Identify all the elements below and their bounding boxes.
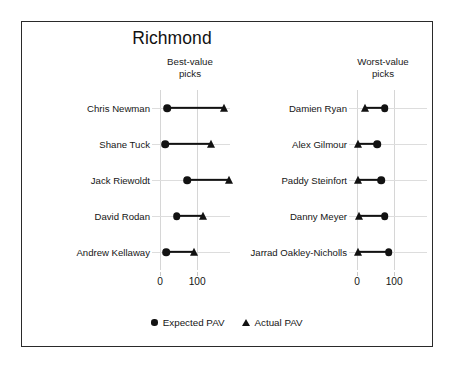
x-axis-worst-value: 0100 (227, 272, 427, 292)
data-point-expected-pav (381, 212, 389, 220)
plot-area-best-value: Chris NewmanShane TuckJack RiewoldtDavid… (30, 90, 230, 270)
plot-area-worst-value: Damien RyanAlex GilmourPaddy SteinfortDa… (227, 90, 427, 270)
axis-tick-label: 0 (354, 276, 360, 287)
triangle-marker-icon (242, 319, 250, 326)
chart-row: Chris Newman (30, 90, 230, 126)
data-point-expected-pav (161, 140, 169, 148)
panel-heading-line1: Worst-value (331, 56, 435, 68)
data-point-expected-pav (164, 104, 172, 112)
x-axis-best-value: 0100 (30, 272, 230, 292)
chart-row: Jack Riewoldt (30, 162, 230, 198)
panel-heading-worst-value: Worst-value picks (331, 56, 435, 81)
chart-row: Danny Meyer (227, 198, 427, 234)
category-label: Danny Meyer (290, 211, 347, 222)
legend-entry-expected-pav: Expected PAV (151, 317, 224, 328)
chart-legend: Expected PAV Actual PAV (22, 317, 432, 328)
chart-card: Richmond Best-value picks Chris NewmanSh… (21, 21, 433, 347)
chart-row: David Rodan (30, 198, 230, 234)
chart-row: Damien Ryan (227, 90, 427, 126)
chart-row: Andrew Kellaway (30, 234, 230, 270)
category-label: Jarrad Oakley-Nicholls (251, 247, 348, 258)
data-point-expected-pav (374, 140, 382, 148)
data-point-expected-pav (173, 212, 181, 220)
axis-tick-label: 100 (386, 276, 403, 287)
legend-label-expected-pav: Expected PAV (163, 317, 225, 328)
connector-line (167, 107, 224, 109)
circle-marker-icon (151, 319, 157, 325)
panel-best-value: Best-value picks Chris NewmanShane TuckJ… (30, 56, 230, 306)
data-point-actual-pav (190, 248, 198, 256)
axis-tick-label: 100 (189, 276, 206, 287)
category-label: Damien Ryan (289, 103, 347, 114)
connector-line (165, 143, 210, 145)
panel-worst-value: Worst-value picks Damien RyanAlex Gilmou… (227, 56, 427, 306)
chart-row: Shane Tuck (30, 126, 230, 162)
data-point-actual-pav (355, 212, 363, 220)
data-point-expected-pav (162, 248, 170, 256)
data-point-actual-pav (354, 176, 362, 184)
chart-row: Paddy Steinfort (227, 162, 427, 198)
connector-line (187, 179, 229, 181)
category-label: Alex Gilmour (292, 139, 347, 150)
chart-row: Alex Gilmour (227, 126, 427, 162)
data-point-expected-pav (385, 248, 393, 256)
legend-entry-actual-pav: Actual PAV (242, 317, 303, 328)
chart-row: Jarrad Oakley-Nicholls (227, 234, 427, 270)
data-point-expected-pav (381, 104, 389, 112)
data-point-actual-pav (354, 140, 362, 148)
data-point-actual-pav (361, 104, 369, 112)
legend-label-actual-pav: Actual PAV (255, 317, 303, 328)
page-title: Richmond (22, 28, 322, 49)
data-point-actual-pav (199, 212, 207, 220)
category-label: Shane Tuck (99, 139, 150, 150)
data-point-actual-pav (354, 248, 362, 256)
data-point-actual-pav (207, 140, 215, 148)
category-label: Andrew Kellaway (76, 247, 150, 258)
data-point-expected-pav (183, 176, 191, 184)
category-label: Jack Riewoldt (91, 175, 150, 186)
axis-tick-label: 0 (157, 276, 163, 287)
category-label: Chris Newman (87, 103, 150, 114)
panel-heading-line2: picks (331, 68, 435, 80)
data-point-expected-pav (377, 176, 385, 184)
category-label: David Rodan (95, 211, 150, 222)
category-label: Paddy Steinfort (281, 175, 347, 186)
